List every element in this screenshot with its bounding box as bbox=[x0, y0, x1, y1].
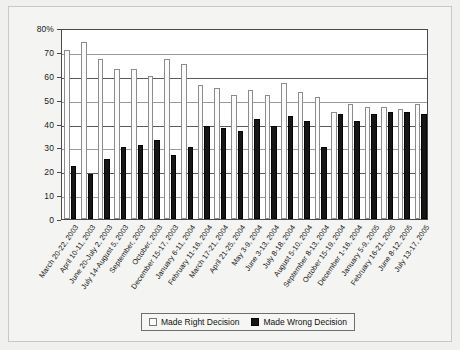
bar-made-right-decision bbox=[398, 109, 404, 219]
y-axis-tick-label: 0 bbox=[49, 215, 54, 225]
bar-group bbox=[331, 30, 343, 219]
bar-made-right-decision bbox=[164, 59, 170, 219]
bar-group bbox=[81, 30, 93, 219]
bar-made-wrong-decision bbox=[204, 126, 210, 219]
y-axis-tick-label: 60 bbox=[44, 72, 54, 82]
bar-made-wrong-decision bbox=[371, 114, 377, 219]
bar-made-wrong-decision bbox=[138, 145, 144, 219]
bar-made-right-decision bbox=[114, 69, 120, 219]
bar-group bbox=[198, 30, 210, 219]
bar-made-wrong-decision bbox=[321, 147, 327, 219]
legend-label: Made Wrong Decision bbox=[263, 317, 346, 327]
bar-group bbox=[281, 30, 293, 219]
bar-group bbox=[265, 30, 277, 219]
legend-label: Made Right Decision bbox=[161, 317, 239, 327]
bar-made-wrong-decision bbox=[304, 121, 310, 219]
y-axis-tick-label: 10 bbox=[44, 191, 54, 201]
bar-group bbox=[415, 30, 427, 219]
bar-group bbox=[315, 30, 327, 219]
bar-group bbox=[214, 30, 226, 219]
bar-made-right-decision bbox=[131, 69, 137, 219]
y-axis-tick-label: 30 bbox=[44, 143, 54, 153]
bar-made-right-decision bbox=[381, 107, 387, 219]
x-axis-labels: March 20-22, 2003April 10-11, 2003June 2… bbox=[61, 221, 428, 307]
bar-group bbox=[365, 30, 377, 219]
bar-made-wrong-decision bbox=[254, 119, 260, 219]
chart-legend: Made Right Decision Made Wrong Decision bbox=[141, 313, 355, 331]
legend-item-made-wrong-decision: Made Wrong Decision bbox=[251, 317, 346, 327]
bar-made-right-decision bbox=[365, 107, 371, 219]
bar-made-wrong-decision bbox=[88, 174, 94, 219]
bar-made-wrong-decision bbox=[121, 147, 127, 219]
bar-made-right-decision bbox=[248, 90, 254, 219]
bar-group bbox=[181, 30, 193, 219]
bar-made-wrong-decision bbox=[188, 147, 194, 219]
bar-made-wrong-decision bbox=[221, 128, 227, 219]
bar-made-wrong-decision bbox=[71, 166, 77, 219]
bar-made-wrong-decision bbox=[271, 126, 277, 219]
bar-made-wrong-decision bbox=[388, 112, 394, 219]
bar-made-right-decision bbox=[64, 50, 70, 220]
bar-group bbox=[64, 30, 76, 219]
bar-made-right-decision bbox=[331, 112, 337, 219]
y-axis-tick-label: 20 bbox=[44, 167, 54, 177]
bar-made-right-decision bbox=[348, 104, 354, 219]
bar-made-right-decision bbox=[181, 64, 187, 219]
bar-group bbox=[131, 30, 143, 219]
bar-group bbox=[348, 30, 360, 219]
bar-made-wrong-decision bbox=[154, 140, 160, 219]
bar-made-right-decision bbox=[98, 59, 104, 219]
bar-group bbox=[164, 30, 176, 219]
bar-made-right-decision bbox=[298, 92, 304, 219]
bar-made-wrong-decision bbox=[404, 112, 410, 219]
bar-group bbox=[114, 30, 126, 219]
bar-made-right-decision bbox=[81, 42, 87, 219]
bar-group bbox=[248, 30, 260, 219]
bar-group bbox=[148, 30, 160, 219]
bar-made-wrong-decision bbox=[338, 114, 344, 219]
y-axis-tick-label: 70 bbox=[44, 48, 54, 58]
bar-made-right-decision bbox=[198, 85, 204, 219]
bar-series-container bbox=[62, 30, 427, 219]
bar-group bbox=[381, 30, 393, 219]
y-axis-tick-label: 50 bbox=[44, 96, 54, 106]
bar-made-wrong-decision bbox=[104, 159, 110, 219]
bar-made-right-decision bbox=[231, 95, 237, 219]
bar-made-wrong-decision bbox=[288, 116, 294, 219]
bar-group bbox=[298, 30, 310, 219]
dark-square-icon bbox=[251, 318, 259, 326]
bar-made-right-decision bbox=[315, 97, 321, 219]
y-axis-tick-label: 80% bbox=[37, 24, 54, 34]
y-axis: 80%706050403020100 bbox=[9, 7, 61, 227]
bar-made-right-decision bbox=[265, 95, 271, 219]
bar-made-wrong-decision bbox=[421, 114, 427, 219]
legend-item-made-right-decision: Made Right Decision bbox=[149, 317, 239, 327]
plot-area bbox=[61, 29, 428, 220]
bar-group bbox=[98, 30, 110, 219]
bar-group bbox=[398, 30, 410, 219]
bar-made-right-decision bbox=[415, 104, 421, 219]
bar-made-wrong-decision bbox=[238, 131, 244, 219]
bar-made-right-decision bbox=[148, 76, 154, 219]
bar-made-right-decision bbox=[214, 88, 220, 219]
bar-made-right-decision bbox=[281, 83, 287, 219]
bar-made-wrong-decision bbox=[171, 155, 177, 219]
light-square-icon bbox=[149, 318, 157, 326]
bar-made-wrong-decision bbox=[354, 121, 360, 219]
bar-group bbox=[231, 30, 243, 219]
chart-figure: 80%706050403020100 March 20-22, 2003Apri… bbox=[8, 6, 452, 342]
y-axis-tick-label: 40 bbox=[44, 120, 54, 130]
